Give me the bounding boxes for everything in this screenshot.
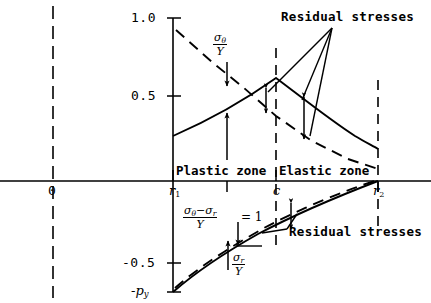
theta-sub: θ (222, 36, 227, 45)
residual-stress-figure: 1.0 0.5 -0.5 -py 0 r1 c r2 Plastic zone … (0, 0, 431, 303)
sigma-glyph: σ (214, 31, 222, 44)
sigma-theta-numerator: σθ (213, 32, 227, 45)
r2-sub: 2 (379, 190, 384, 199)
c-main: c (273, 183, 280, 198)
x-tick-label-r2: r2 (373, 184, 384, 197)
residual-upper-leader-a (268, 28, 332, 92)
sigma-theta-over-Y-label: σθ Y (213, 32, 227, 57)
x-tick-label-c: c (273, 184, 280, 197)
yield-criterion-equals-label: = 1 (241, 210, 263, 224)
plastic-zone-label: Plastic zone (176, 165, 266, 178)
yield-denominator: Y (183, 218, 217, 230)
y-tick-label-0-5: 0.5 (131, 89, 156, 102)
r-sub2: r (213, 209, 217, 218)
sigma-r-denominator: Y (232, 265, 245, 277)
sigma-glyph-theta2: σ (184, 204, 192, 217)
sigma-theta-denominator: Y (213, 45, 227, 57)
r1-sub: 1 (175, 190, 180, 199)
x-tick-label-r1: r1 (169, 184, 180, 197)
minus-sigma-glyph: −σ (196, 204, 213, 217)
sigma-r-over-Y-label: σr Y (232, 252, 245, 277)
y-tick-label-1-0: 1.0 (131, 11, 156, 24)
residual-upper-leader-c (310, 28, 332, 136)
residual-upper-leader-b (302, 28, 332, 100)
sigma-glyph-r: σ (233, 251, 241, 264)
neg-py-sub: y (144, 289, 149, 299)
theta-sub2: θ (192, 209, 197, 218)
residual-stresses-label-upper: Residual stresses (281, 11, 414, 24)
neg-py-main: -p (131, 283, 144, 298)
residual-stresses-label-lower: Residual stresses (289, 226, 422, 239)
y-bottom-label-neg-py: -py (131, 284, 149, 297)
sigma-r-numerator: σr (232, 252, 245, 265)
y-tick-label-neg-0-5: -0.5 (122, 256, 155, 269)
elastic-zone-label: Elastic zone (279, 165, 369, 178)
yield-numerator: σθ−σr (183, 205, 217, 218)
yield-criterion-fraction: σθ−σr Y (183, 205, 217, 230)
origin-label: 0 (48, 184, 56, 197)
residual-hoop-stress-dashed-upper (176, 30, 378, 169)
r-sub: r (241, 256, 245, 265)
